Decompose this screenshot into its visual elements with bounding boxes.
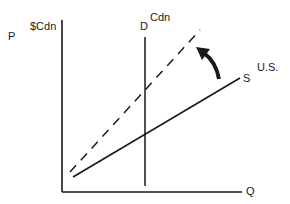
supply-curve bbox=[73, 78, 240, 177]
shift-arrow-icon bbox=[204, 53, 219, 79]
y-axis-unit: $Cdn bbox=[30, 21, 56, 32]
demand-label: D bbox=[140, 21, 148, 32]
supply-source-label: U.S. bbox=[257, 62, 278, 73]
demand-market-label: Cdn bbox=[150, 12, 170, 23]
x-axis-label: Q bbox=[246, 186, 255, 197]
y-axis-label: P bbox=[8, 31, 15, 42]
supply-label: S bbox=[243, 73, 250, 84]
shifted-supply-curve bbox=[70, 30, 200, 172]
